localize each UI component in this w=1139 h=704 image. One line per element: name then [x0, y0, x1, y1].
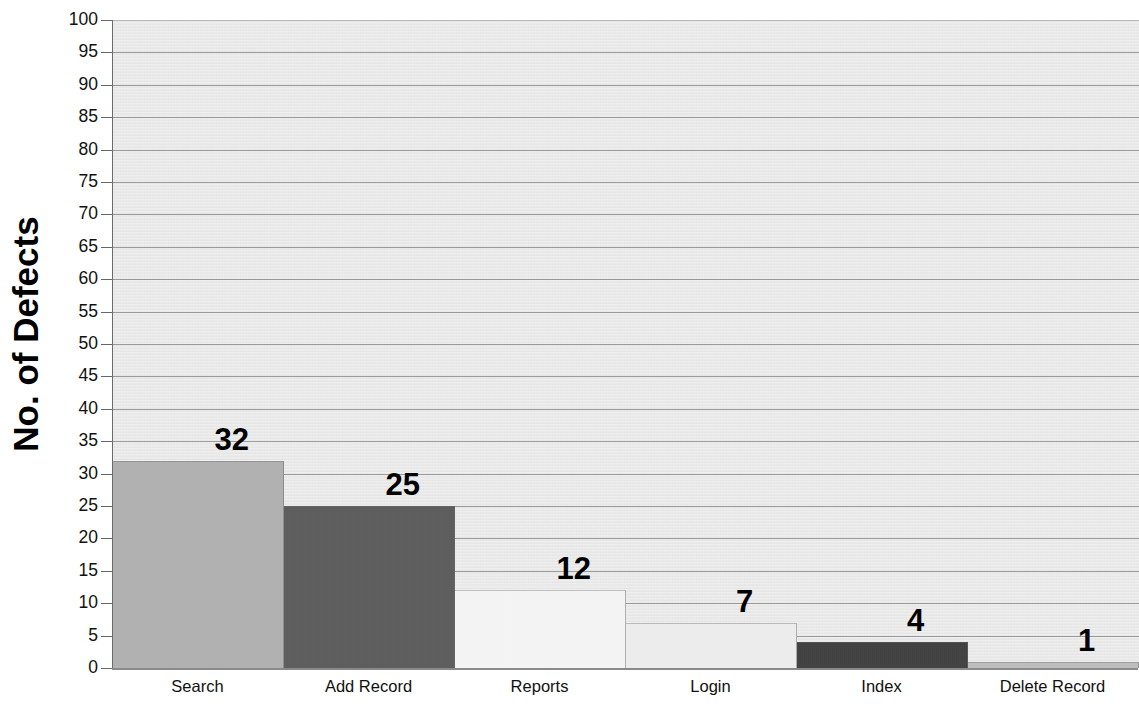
- y-axis-tick-mark: [101, 85, 112, 86]
- x-axis-tick-label: Index: [861, 678, 901, 695]
- y-axis-tick-mark: [101, 117, 112, 118]
- y-axis-tick-mark: [101, 150, 112, 151]
- y-axis-tick-mark: [101, 409, 112, 410]
- y-axis-tick-label: 55: [79, 303, 98, 321]
- y-axis-tick-label: 30: [79, 465, 98, 483]
- y-axis-tick-mark: [101, 20, 112, 21]
- x-axis-line: [112, 668, 1138, 670]
- y-axis-tick-label: 20: [79, 530, 98, 548]
- x-axis: SearchAdd RecordReportsLoginIndexDelete …: [112, 672, 1138, 704]
- y-axis-tick-mark: [101, 441, 112, 442]
- y-axis-tick-label: 100: [69, 11, 98, 29]
- bar-value-label: 32: [214, 424, 248, 455]
- y-axis-tick-mark: [101, 474, 112, 475]
- y-axis-tick-mark: [101, 312, 112, 313]
- y-axis-tick-mark: [101, 376, 112, 377]
- y-axis-tick-label: 45: [79, 368, 98, 386]
- bar-texture: [626, 624, 796, 668]
- y-axis-title: No. of Defects: [0, 0, 52, 668]
- y-axis-tick-mark: [101, 182, 112, 183]
- y-axis-tick-label: 70: [79, 206, 98, 224]
- y-axis-tick-mark: [101, 506, 112, 507]
- y-axis-tick-label: 15: [79, 562, 98, 580]
- bars-layer: [113, 20, 1139, 668]
- y-axis-tick-mark: [101, 571, 112, 572]
- y-axis-tick-label: 40: [79, 400, 98, 418]
- x-axis-tick-label: Login: [690, 678, 730, 695]
- bar[interactable]: [113, 461, 284, 668]
- y-axis-tick-mark: [101, 214, 112, 215]
- x-axis-tick-label: Reports: [511, 678, 569, 695]
- y-axis-tick-label: 10: [79, 594, 98, 612]
- y-axis-tick-label: 35: [79, 432, 98, 450]
- x-axis-tick-label: Delete Record: [1000, 678, 1105, 695]
- y-axis-tick-mark: [101, 668, 112, 669]
- y-axis-tick-mark: [101, 247, 112, 248]
- y-axis-tick-label: 85: [79, 108, 98, 126]
- bar-value-label: 4: [907, 605, 924, 636]
- bar-texture: [284, 507, 454, 668]
- y-axis-tick-label: 95: [79, 44, 98, 62]
- y-axis-tick-mark: [101, 52, 112, 53]
- y-axis-tick-label: 90: [79, 76, 98, 94]
- bar-texture: [455, 591, 625, 668]
- y-axis-tick-mark: [101, 279, 112, 280]
- bar-value-label: 25: [385, 469, 419, 500]
- bar[interactable]: [797, 642, 968, 668]
- y-axis-tick-label: 0: [88, 659, 98, 677]
- y-axis-title-text: No. of Defects: [6, 216, 46, 451]
- y-axis-tick-label: 25: [79, 497, 98, 515]
- y-axis-tick-mark: [101, 636, 112, 637]
- plot-area: [112, 20, 1139, 668]
- y-axis-tick-label: 50: [79, 335, 98, 353]
- y-axis-tick-label: 80: [79, 141, 98, 159]
- y-axis-tick-mark: [101, 603, 112, 604]
- y-axis-tick-label: 75: [79, 173, 98, 191]
- y-axis-tick-label: 65: [79, 238, 98, 256]
- y-axis-tick-mark: [101, 538, 112, 539]
- x-axis-tick-label: Search: [171, 678, 223, 695]
- bar-value-label: 1: [1078, 625, 1095, 656]
- bar[interactable]: [626, 623, 797, 668]
- bar[interactable]: [455, 590, 626, 668]
- bar-texture: [797, 643, 967, 668]
- bar-value-label: 12: [556, 553, 590, 584]
- y-axis-tick-label: 60: [79, 270, 98, 288]
- bar[interactable]: [284, 506, 455, 668]
- y-axis: 1009590858075706560555045403530252015105…: [52, 0, 112, 704]
- bar-texture: [113, 462, 283, 668]
- bar-value-label: 7: [736, 586, 753, 617]
- x-axis-tick-label: Add Record: [325, 678, 412, 695]
- y-axis-tick-mark: [101, 344, 112, 345]
- y-axis-tick-label: 5: [88, 627, 98, 645]
